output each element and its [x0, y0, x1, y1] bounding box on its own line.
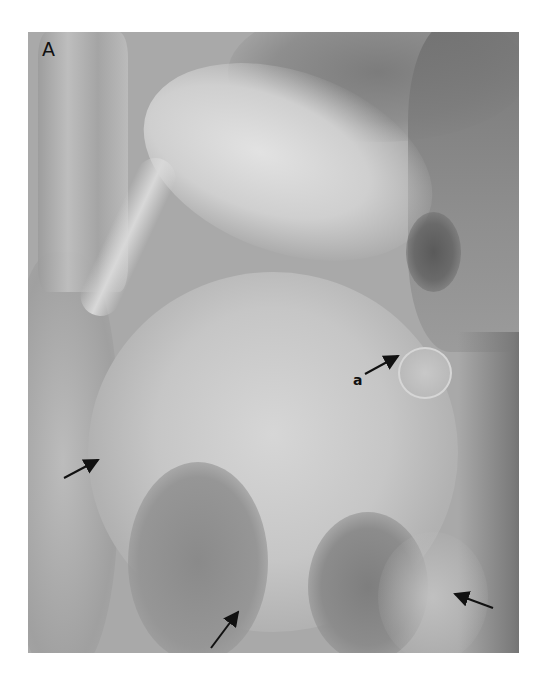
- panel-label: A: [42, 38, 55, 60]
- arrow-right: [455, 594, 493, 608]
- annotation-label-a: a: [353, 372, 362, 388]
- arrow-bottom: [211, 612, 238, 648]
- annotation-overlay: [0, 0, 548, 684]
- arrow-left: [64, 460, 98, 478]
- arrow-a: [365, 356, 398, 374]
